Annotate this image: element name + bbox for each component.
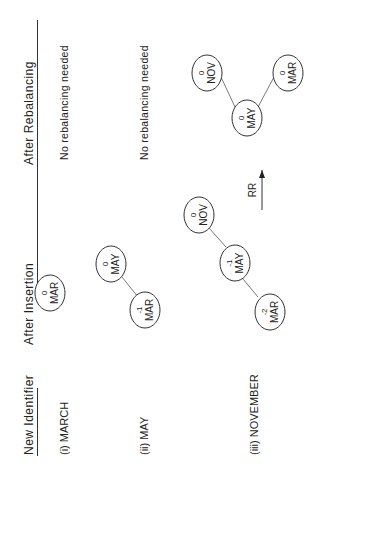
svg-text:0: 0 [197,70,206,75]
svg-text:NOV: NOV [206,62,217,84]
svg-text:MAR: MAR [144,299,155,321]
svg-text:0: 0 [101,261,110,266]
edge-may-nov-rb [221,77,235,107]
svg-text:NOV: NOV [198,204,209,226]
edge-mar-may-r2 [122,277,138,297]
node-rb-may: 0 MAY [232,100,262,136]
node-r3-mar: -2 MAR [255,294,285,330]
svg-text:MAY: MAY [246,107,257,128]
svg-text:0: 0 [189,212,198,217]
svg-text:MAY: MAY [234,252,245,273]
rotation-label: RR [247,183,258,197]
svg-text:-1: -1 [135,306,144,314]
svg-text:MAR: MAR [269,301,280,323]
trees-canvas: RR 0 MAR -1 MAR 0 MAY -2 MAR -1 MAY [0,0,371,555]
node-rb-mar: 0 MAR [273,55,303,91]
node-r1-mar: 0 MAR [35,275,65,311]
rotation-arrow [259,170,265,210]
svg-text:0: 0 [40,290,49,295]
svg-text:-1: -1 [225,259,234,267]
svg-text:-2: -2 [260,308,269,316]
edge-mar-may-r3 [243,279,258,297]
svg-text:MAY: MAY [110,253,121,274]
node-rb-nov: 0 NOV [192,55,222,91]
edge-may-mar-rb [258,77,274,107]
svg-text:MAR: MAR [287,62,298,84]
svg-text:0: 0 [278,70,287,75]
node-r2-mar: -1 MAR [130,292,160,328]
node-r3-nov: 0 NOV [184,197,214,233]
node-r3-may: -1 MAY [220,245,250,281]
node-r2-may: 0 MAY [96,246,126,282]
edge-may-nov-r3 [209,228,226,247]
avl-insertion-diagram: New Identifier After Insertion After Reb… [0,0,371,555]
svg-text:MAR: MAR [49,282,60,304]
svg-text:0: 0 [237,115,246,120]
